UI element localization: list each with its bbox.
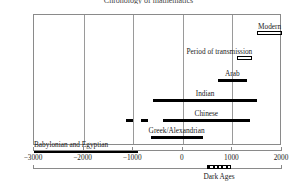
timeline-chart: Chronology of mathematics ModernPeriod o… xyxy=(0,0,297,187)
timeline-row: Greek/Alexandrian xyxy=(151,125,203,139)
timeline-row: Arab xyxy=(218,68,248,82)
dark-ages-marker xyxy=(207,165,232,169)
timeline-bar-segment xyxy=(141,119,148,122)
timeline-bar-label: Chinese xyxy=(195,110,219,118)
timeline-bar-label: Greek/Alexandrian xyxy=(149,127,205,135)
timeline-bar xyxy=(257,31,282,35)
timeline-bar xyxy=(153,99,257,102)
secondary-axis: Dark Ages xyxy=(33,168,281,169)
x-axis-tick xyxy=(281,147,282,151)
x-axis-tick-label: 0 xyxy=(180,153,184,162)
x-axis-tick xyxy=(182,147,183,151)
x-axis-tick-label: −1000 xyxy=(123,153,142,162)
secondary-axis-tick xyxy=(33,165,34,169)
timeline-bar-label: Period of transmission xyxy=(187,48,253,56)
secondary-axis-tick xyxy=(281,165,282,169)
timeline-bar xyxy=(237,56,252,60)
chart-title: Chronology of mathematics xyxy=(0,0,297,4)
x-axis-tick-label: 1000 xyxy=(224,153,239,162)
timeline-bar-label: Modern xyxy=(258,23,281,31)
timeline-row: Indian xyxy=(153,88,257,102)
timeline-bar-segment xyxy=(126,119,133,122)
timeline-row: Chinese xyxy=(163,108,250,122)
timeline-bar xyxy=(218,79,248,82)
x-axis-tick xyxy=(132,147,133,151)
timeline-row: Modern xyxy=(257,21,282,35)
bars-layer: ModernPeriod of transmissionArabIndianCh… xyxy=(34,15,280,144)
plot-area: ModernPeriod of transmissionArabIndianCh… xyxy=(33,14,281,145)
timeline-bar xyxy=(163,119,250,122)
x-axis: −3000−2000−1000010002000 xyxy=(33,150,281,151)
x-axis-tick xyxy=(83,147,84,151)
x-axis-tick xyxy=(231,147,232,151)
x-axis-tick xyxy=(33,147,34,151)
x-axis-tick-label: −2000 xyxy=(73,153,92,162)
x-axis-tick-label: 2000 xyxy=(274,153,289,162)
x-axis-tick-label: −3000 xyxy=(24,153,43,162)
timeline-bar xyxy=(151,136,203,139)
timeline-row: Period of transmission xyxy=(237,46,252,60)
timeline-bar-label: Arab xyxy=(225,70,240,78)
timeline-bar-label: Indian xyxy=(196,90,215,98)
dark-ages-label: Dark Ages xyxy=(203,172,234,181)
timeline-bar-label: Babylonian and Egyptian xyxy=(34,141,108,149)
